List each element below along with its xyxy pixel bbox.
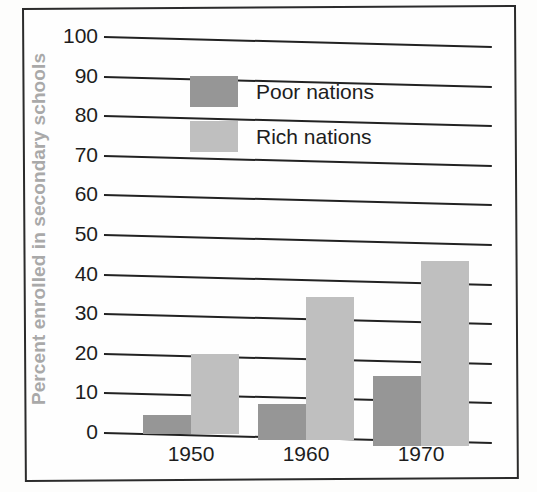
legend-label: Poor nations [256, 81, 374, 102]
chart-plot-area: Percent enrolled in secondary schools 01… [0, 0, 537, 492]
legend-item-rich-nations: Rich nations [190, 121, 372, 152]
x-tick-label: 1950 [146, 443, 236, 464]
x-tick-label: 1970 [376, 443, 466, 464]
bar-1950-poor-nations [143, 415, 191, 434]
bar-1950-rich-nations [191, 354, 239, 434]
bar-1970-poor-nations [373, 376, 421, 446]
bar-1960-poor-nations [258, 404, 306, 440]
bar-1970-rich-nations [421, 261, 469, 446]
legend-label: Rich nations [256, 126, 372, 147]
legend-item-poor-nations: Poor nations [190, 76, 374, 107]
bar-1960-rich-nations [306, 297, 354, 440]
bars-layer [0, 0, 537, 492]
legend-swatch-icon [190, 76, 238, 107]
x-tick-label: 1960 [261, 443, 351, 464]
figure-container: Percent enrolled in secondary schools 01… [0, 0, 537, 492]
legend-swatch-icon [190, 121, 238, 152]
